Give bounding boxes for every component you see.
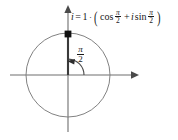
- real-axis-arrowhead: [131, 71, 139, 79]
- formula-cos-label: cos: [100, 12, 113, 22]
- angle-label: π 2: [77, 45, 84, 65]
- axes-group: [10, 11, 131, 132]
- formula-sin-arg-denominator: 2: [148, 17, 154, 25]
- angle-denominator: 2: [77, 55, 84, 64]
- formula-sin-label: sin: [135, 12, 147, 22]
- formula-sin-argument: π 2: [148, 9, 154, 25]
- formula-sin-arg-numerator: π: [148, 9, 154, 17]
- formula-lhs: i: [71, 12, 74, 22]
- angle-numerator: π: [77, 45, 84, 54]
- formula-expression: i = 1 · ( cos π 2 + i sin π 2 ): [71, 9, 161, 25]
- formula-cos-arg-denominator: 2: [115, 17, 121, 25]
- angle-fraction: π 2: [77, 45, 84, 65]
- formula-cos-argument: π 2: [115, 9, 121, 25]
- formula-cos-arg-numerator: π: [115, 9, 121, 17]
- formula-imaginary-unit: i: [131, 12, 134, 22]
- formula-plus: +: [124, 12, 130, 22]
- complex-plane-figure: i = 1 · ( cos π 2 + i sin π 2 ) π 2: [0, 0, 178, 140]
- formula-equals: =: [75, 12, 81, 22]
- formula-modulus: 1: [82, 12, 87, 22]
- point-i-marker: [65, 31, 72, 38]
- formula-multiply-dot: ·: [89, 13, 92, 22]
